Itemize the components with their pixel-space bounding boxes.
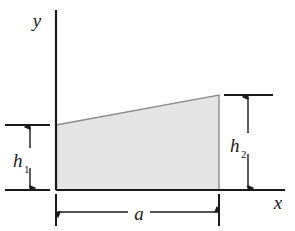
diagram-canvas: y x h 1 h 2 a: [0, 0, 295, 231]
y-axis-label: y: [31, 10, 42, 31]
h2-dimension-subscript: 2: [241, 148, 247, 160]
h2-dimension-label: h: [230, 135, 240, 156]
h1-dimension-label: h: [13, 150, 23, 171]
x-axis-label: x: [273, 192, 283, 213]
figure-container: y x h 1 h 2 a: [0, 0, 295, 231]
h1-dimension-subscript: 1: [24, 163, 30, 175]
a-dimension-label: a: [134, 203, 144, 224]
trapezoid-shape: [56, 95, 219, 190]
